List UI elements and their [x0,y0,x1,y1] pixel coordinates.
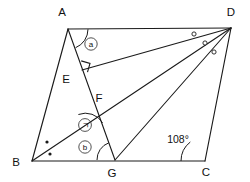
equal-angle-circle-D-3 [212,50,216,54]
angle-label-gi: ㄱ [82,121,89,130]
segment-DC [205,28,231,161]
equal-angle-dot-B-1 [45,140,48,143]
angle-label-b: b [83,143,88,152]
segment-ED [82,28,231,70]
geometry-figure: A B C D E F G a ㄱ b 108° [0,0,250,182]
vertex-label-E: E [62,73,70,85]
equal-angle-circle-D-1 [192,32,196,36]
vertex-label-G: G [108,167,117,179]
geometry-canvas: A B C D E F G a ㄱ b 108° [0,0,250,182]
equal-angle-dot-B-2 [48,152,51,155]
vertex-label-C: C [202,166,210,178]
angle-arc-A [76,29,88,48]
vertex-label-B: B [12,156,20,168]
angle-value-C: 108° [167,133,189,145]
segment-AD [68,28,231,29]
equal-angle-circle-D-2 [203,41,207,45]
vertex-label-F: F [95,92,102,104]
vertex-label-D: D [227,6,235,18]
angle-label-a: a [89,40,94,49]
angle-arc-G [97,143,109,160]
vertex-label-A: A [58,6,66,18]
